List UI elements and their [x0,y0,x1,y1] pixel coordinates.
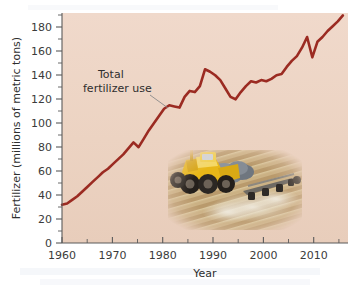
y-tick-label-100: 100 [31,117,52,130]
y-tick-label-180: 180 [31,21,52,34]
x-tick-label-2010: 2010 [300,249,328,262]
y-tick-label-160: 160 [31,45,52,58]
annotation-line-1: Total [97,68,124,81]
annotation-line-2: fertilizer use [83,82,152,95]
y-tick-label-40: 40 [38,189,52,202]
x-tick-label-1960: 1960 [48,249,76,262]
x-tick-label-1970: 1970 [98,249,126,262]
chart-svg: Total fertilizer use [0,0,354,292]
y-tick-label-140: 140 [31,69,52,82]
tractor-applying-fertilizer-photo [168,149,302,230]
y-tick-label-120: 120 [31,93,52,106]
x-tick-label-1980: 1980 [149,249,177,262]
x-tick-label-1990: 1990 [199,249,227,262]
x-tick-label-2000: 2000 [249,249,277,262]
y-tick-label-60: 60 [38,165,52,178]
y-tick-label-80: 80 [38,141,52,154]
y-axis-title: Fertilizer (millions of metric tons) [10,37,23,219]
x-axis-title: Year [192,267,217,280]
plot-area: Total fertilizer use [62,13,348,243]
fertilizer-use-chart-figure: Total fertilizer use [0,0,354,292]
y-tick-label-20: 20 [38,213,52,226]
